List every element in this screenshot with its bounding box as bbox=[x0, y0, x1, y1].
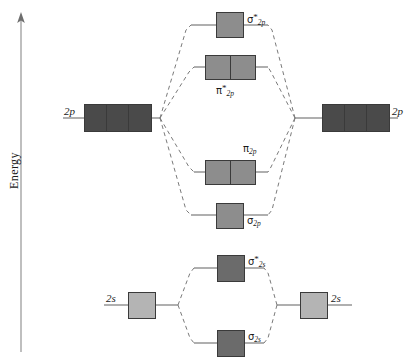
subscript: 2s bbox=[259, 260, 266, 269]
dashed-correlation-2p bbox=[160, 25, 295, 215]
subscript: 2p bbox=[258, 18, 266, 27]
atomic-orbital-left-2p-label: 2p bbox=[64, 106, 75, 117]
subscript: 2s bbox=[254, 335, 261, 344]
molecular-orbital-pi-2p-box-1 bbox=[205, 160, 231, 185]
molecular-orbital-sigma-star-2p-box bbox=[216, 12, 244, 38]
molecular-orbital-sigma-2s-box bbox=[217, 330, 245, 357]
subscript: 2p bbox=[253, 219, 261, 228]
molecular-orbital-sigma-2p-label: σ2p bbox=[247, 216, 261, 228]
subscript: 2p bbox=[249, 147, 257, 156]
atomic-orbital-left-2p-box-1 bbox=[84, 104, 107, 132]
molecular-orbital-sigma-star-2s-label: σ*2s bbox=[248, 255, 266, 269]
molecular-orbital-sigma-star-2s-box bbox=[217, 255, 245, 282]
molecular-orbital-sigma-2s-label: σ2s bbox=[248, 332, 261, 344]
atomic-orbital-left-2p-box-3 bbox=[128, 104, 152, 132]
atomic-orbital-right-2p-label: 2p bbox=[392, 106, 403, 117]
atomic-orbital-left-2s-label: 2s bbox=[106, 293, 116, 304]
atomic-orbital-right-2s-label: 2s bbox=[331, 293, 341, 304]
atomic-orbital-right-2p-box-2 bbox=[344, 104, 367, 132]
atomic-orbital-left-2p-box-2 bbox=[106, 104, 129, 132]
atomic-orbital-right-2p-box-1 bbox=[322, 104, 345, 132]
mo-energy-diagram: 2p 2p σ*2p π*2p π2p σ2p 2s 2s σ*2s σ2s E… bbox=[0, 0, 409, 362]
atomic-orbital-right-2p-box-3 bbox=[366, 104, 390, 132]
molecular-orbital-pi-2p-box-2 bbox=[230, 160, 256, 185]
molecular-orbital-sigma-2p-box bbox=[216, 203, 244, 229]
molecular-orbital-pi-2p-label: π2p bbox=[243, 144, 257, 156]
molecular-orbital-sigma-star-2p-label: σ*2p bbox=[247, 13, 265, 27]
molecular-orbital-pi-star-2p-label: π*2p bbox=[216, 84, 234, 98]
subscript: 2p bbox=[227, 89, 235, 98]
energy-axis-label: Energy bbox=[7, 136, 22, 206]
molecular-orbital-pi-star-2p-box-1 bbox=[205, 55, 231, 80]
molecular-orbital-pi-star-2p-box-2 bbox=[230, 55, 256, 80]
atomic-orbital-right-2s-box bbox=[300, 292, 328, 319]
atomic-orbital-left-2s-box bbox=[128, 292, 156, 319]
